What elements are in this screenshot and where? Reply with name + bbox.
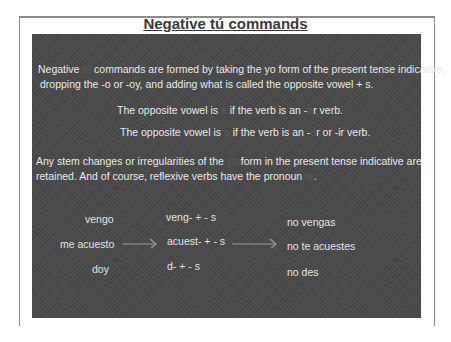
stem-line-2: retained. And of course, reflexive verbs… xyxy=(36,169,317,183)
rule-ar-ir: The opposite vowel is a if the verb is a… xyxy=(120,125,370,139)
example-command-1: no vengas xyxy=(287,216,335,228)
slide-title: Negative tú commands xyxy=(0,15,451,33)
example-stem-2: acuest- + - s xyxy=(167,235,225,247)
example-infinitive-3: doy xyxy=(92,263,109,275)
intro-line-1: Negative tú commands are formed by takin… xyxy=(38,62,445,76)
arrow-right-icon xyxy=(232,238,278,248)
stem-line-1: Any stem changes or irregularities of th… xyxy=(36,154,422,168)
example-stem-1: veng- + - s xyxy=(166,211,216,223)
intro-line-2: dropping the -o or -oy, and adding what … xyxy=(40,77,373,91)
example-infinitive-1: vengo xyxy=(85,213,114,225)
example-command-3: no des xyxy=(287,266,319,278)
hidden-word: tú xyxy=(82,63,91,75)
rule-er: The opposite vowel is e if the verb is a… xyxy=(117,103,343,117)
example-stem-3: d- + - s xyxy=(167,260,200,272)
arrow-right-icon xyxy=(122,238,158,248)
example-command-2: no te acuestes xyxy=(287,240,355,252)
example-infinitive-2: me acuesto xyxy=(60,238,114,250)
